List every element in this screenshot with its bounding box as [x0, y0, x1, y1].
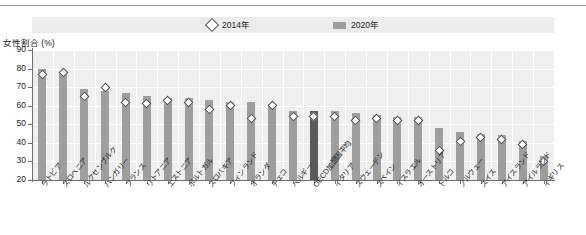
y-tick-label-30: 30	[0, 156, 26, 165]
legend-item-2020: 2020年	[333, 17, 379, 33]
legend-band	[32, 17, 554, 33]
gridline-v-16	[366, 50, 367, 180]
top-divider-rule	[0, 5, 586, 6]
gridline-v-17	[387, 50, 388, 180]
y-tick-mark-40	[28, 143, 32, 144]
gridline-v-12	[283, 50, 284, 180]
y-tick-label-70: 70	[0, 82, 26, 91]
gridline-v-2	[74, 50, 75, 180]
gridline-v-8	[199, 50, 200, 180]
y-tick-label-20: 20	[0, 175, 26, 184]
y-tick-mark-50	[28, 124, 32, 125]
gridline-v-23	[512, 50, 513, 180]
gridline-v-1	[53, 50, 54, 180]
gridline-v-20	[450, 50, 451, 180]
gridline-v-14	[324, 50, 325, 180]
legend-item-2014: 2014年	[207, 17, 250, 33]
diamond-outline-icon	[205, 18, 219, 32]
y-tick-mark-80	[28, 69, 32, 70]
gridline-v-4	[116, 50, 117, 180]
y-tick-label-80: 80	[0, 64, 26, 73]
gridline-v-7	[178, 50, 179, 180]
gridline-h-90	[32, 50, 554, 51]
y-tick-mark-60	[28, 106, 32, 107]
gridline-v-5	[136, 50, 137, 180]
y-axis-line	[32, 48, 33, 182]
y-tick-mark-90	[28, 50, 32, 51]
gridline-v-18	[408, 50, 409, 180]
gridline-h-80	[32, 69, 554, 70]
y-tick-mark-30	[28, 161, 32, 162]
gridline-v-9	[220, 50, 221, 180]
bar-swatch-icon	[333, 22, 346, 29]
gridline-v-24	[533, 50, 534, 180]
y-tick-mark-20	[28, 180, 32, 181]
gridline-v-11	[262, 50, 263, 180]
gridline-v-13	[303, 50, 304, 180]
gridline-v-22	[491, 50, 492, 180]
gridline-h-60	[32, 106, 554, 107]
gridline-v-6	[157, 50, 158, 180]
gridline-v-19	[429, 50, 430, 180]
gridline-v-15	[345, 50, 346, 180]
bar-0	[38, 69, 46, 180]
legend-label-2014: 2014年	[222, 21, 250, 30]
y-tick-label-50: 50	[0, 119, 26, 128]
gridline-v-21	[470, 50, 471, 180]
y-tick-mark-70	[28, 87, 32, 88]
y-tick-label-40: 40	[0, 138, 26, 147]
legend-label-2020: 2020年	[351, 21, 379, 30]
y-tick-label-90: 90	[0, 45, 26, 54]
gridline-v-3	[95, 50, 96, 180]
y-tick-label-60: 60	[0, 101, 26, 110]
gridline-v-10	[241, 50, 242, 180]
